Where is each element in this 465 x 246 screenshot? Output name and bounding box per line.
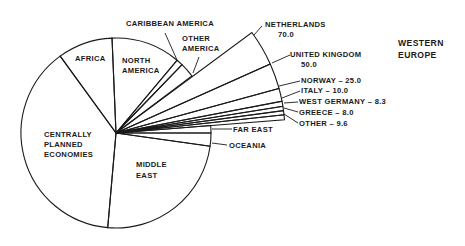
greece-leader-arrow [284, 108, 298, 112]
label-netherlands: NETHERLANDS [265, 20, 326, 29]
uk-leader-arrow [272, 55, 290, 63]
label-centrally-planned-3: ECONOMIES [44, 150, 93, 159]
oceania-leader-arrow [212, 143, 227, 145]
label-north-america-1: NORTH [122, 56, 151, 65]
other-leader-arrow [284, 114, 298, 123]
other-america-leader-arrow [193, 57, 199, 73]
label-netherlands-value: 70.0 [278, 30, 294, 39]
label-western-europe-1: WESTERN [398, 38, 444, 48]
slice-middle-east [108, 133, 210, 228]
label-centrally-planned-2: PLANNED [44, 140, 83, 149]
label-italy: ITALY – 10.0 [301, 86, 348, 95]
label-other: OTHER – 9.6 [299, 119, 348, 128]
slice-africa [60, 38, 116, 133]
slice-labels: CARIBBEAN AMERICA OTHER AMERICA AFRICA N… [44, 19, 444, 180]
label-far-east: FAR EAST [233, 125, 273, 134]
label-western-europe-2: EUROPE [398, 50, 437, 60]
label-oceania: OCEANIA [229, 141, 266, 150]
pie-chart: CARIBBEAN AMERICA OTHER AMERICA AFRICA N… [0, 0, 465, 246]
label-greece: GREECE – 8.0 [299, 108, 354, 117]
label-centrally-planned-1: CENTRALLY [44, 130, 92, 139]
label-caribbean-america: CARIBBEAN AMERICA [126, 19, 214, 28]
label-middle-east-2: EAST [136, 171, 158, 180]
label-other-america-1: OTHER [182, 34, 210, 43]
label-norway: NORWAY – 25.0 [301, 76, 361, 85]
netherlands-leader-arrow [254, 26, 262, 35]
label-other-america-2: AMERICA [182, 44, 220, 53]
italy-leader-arrow [282, 91, 300, 98]
label-africa: AFRICA [75, 54, 106, 63]
label-middle-east-1: MIDDLE [136, 160, 167, 169]
label-united-kingdom: UNITED KINGDOM [290, 50, 361, 59]
label-west-germany: WEST GERMANY – 8.3 [299, 97, 386, 106]
label-north-america-2: AMERICA [122, 66, 160, 75]
west-germany-leader-arrow [284, 102, 298, 103]
norway-leader-arrow [279, 81, 300, 86]
label-united-kingdom-value: 50.0 [301, 60, 317, 69]
